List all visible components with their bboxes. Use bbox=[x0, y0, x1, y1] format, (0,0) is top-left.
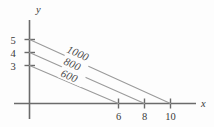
y-tick-label-4: 4 bbox=[10, 48, 16, 59]
y-axis-label: y bbox=[35, 4, 41, 15]
level-lines-group bbox=[30, 40, 171, 104]
figure-container: y x 5 4 3 6 8 10 bbox=[0, 0, 214, 127]
x-tick-label-6: 6 bbox=[116, 111, 121, 122]
x-tick-label-8: 8 bbox=[142, 111, 147, 122]
x-axis-label: x bbox=[200, 98, 206, 109]
axes-group bbox=[14, 20, 196, 119]
graph-canvas: y x 5 4 3 6 8 10 bbox=[0, 0, 214, 127]
x-tick-label-10: 10 bbox=[165, 111, 176, 122]
y-tick-label-5: 5 bbox=[10, 35, 15, 46]
level-line-1000 bbox=[30, 40, 171, 104]
y-tick-label-3: 3 bbox=[10, 61, 15, 72]
